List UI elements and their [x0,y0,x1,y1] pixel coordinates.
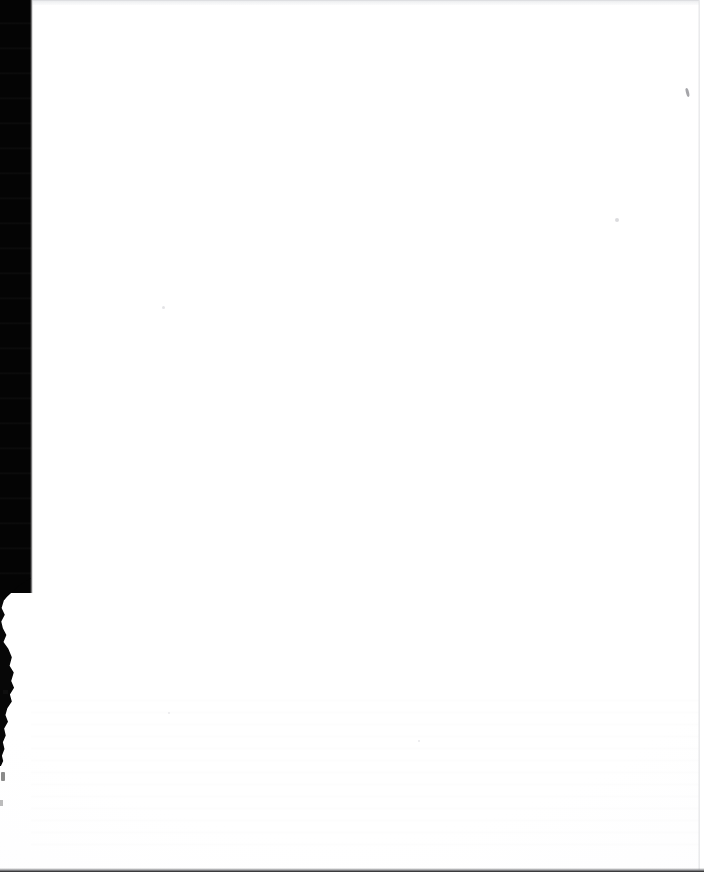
top-scan-line-artifact [31,0,704,5]
page-body-text [60,40,660,820]
page-bottom-edge [0,868,704,872]
scanner-gutter-fleck-upper [3,690,8,694]
page-right-margin [700,0,704,872]
scanner-gutter-fleck-lower [0,800,3,806]
scanner-gutter-band [0,0,31,593]
scanned-page-canvas [0,0,704,872]
scanner-gutter-fleck-mid [1,772,5,781]
